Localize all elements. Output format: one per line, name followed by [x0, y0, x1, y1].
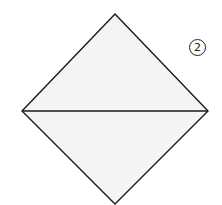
fold-diagram	[0, 0, 222, 205]
diamond-paper	[22, 14, 208, 204]
step-number-badge: 2	[189, 39, 206, 56]
